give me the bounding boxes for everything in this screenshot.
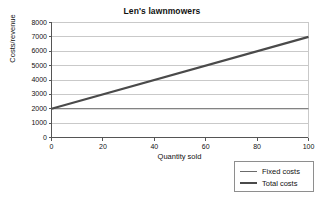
x-tick-label: 40 bbox=[139, 143, 169, 151]
legend-item-total-costs: Total costs bbox=[240, 177, 297, 189]
y-tick-label: 7000 bbox=[13, 33, 47, 41]
x-tick-label: 0 bbox=[37, 143, 67, 151]
data-series bbox=[52, 37, 309, 109]
y-tick-label: 8000 bbox=[13, 19, 47, 27]
y-tick-label: 1000 bbox=[13, 119, 47, 127]
x-tick-label: 20 bbox=[88, 143, 118, 151]
legend-item-fixed-costs: Fixed costs bbox=[240, 165, 300, 177]
legend-swatch-fixed-costs bbox=[240, 171, 257, 172]
x-tick-label: 80 bbox=[242, 143, 272, 151]
legend-label-total-costs: Total costs bbox=[262, 179, 297, 188]
chart-container: Len's lawnmowers Costs/revenue Quantity … bbox=[0, 0, 324, 202]
legend-swatch-total-costs bbox=[240, 182, 257, 184]
y-tick-label: 3000 bbox=[13, 90, 47, 98]
y-tick-label: 2000 bbox=[13, 105, 47, 113]
y-tick-label: 4000 bbox=[13, 76, 47, 84]
y-tick-label: 6000 bbox=[13, 47, 47, 55]
legend-label-fixed-costs: Fixed costs bbox=[262, 167, 300, 176]
x-tick-label: 100 bbox=[294, 143, 324, 151]
y-tick-label: 0 bbox=[13, 134, 47, 142]
y-tick-label: 5000 bbox=[13, 62, 47, 70]
x-tick-label: 60 bbox=[191, 143, 221, 151]
chart-legend: Fixed costs Total costs bbox=[234, 161, 314, 192]
